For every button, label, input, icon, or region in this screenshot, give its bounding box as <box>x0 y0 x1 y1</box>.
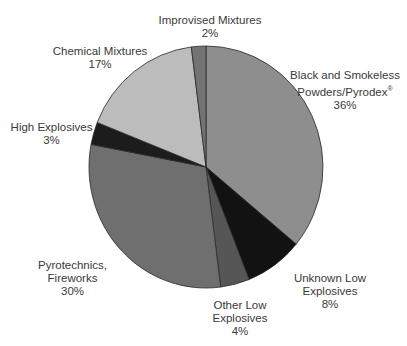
label-text: Chemical Mixtures <box>40 45 160 58</box>
label-percent: 17% <box>40 58 160 71</box>
label-text: Pyrotechnics, <box>30 259 115 272</box>
label-chemical-mixtures: Chemical Mixtures 17% <box>40 45 160 71</box>
label-unknown-low-explosives: Unknown Low Explosives 8% <box>275 272 385 311</box>
label-percent: 2% <box>150 27 270 40</box>
label-text-2: Explosives <box>200 312 280 325</box>
label-percent: 36% <box>285 99 405 112</box>
label-other-low-explosives: Other Low Explosives 4% <box>200 299 280 338</box>
label-percent: 30% <box>30 285 115 298</box>
label-text-2: Fireworks <box>30 272 115 285</box>
label-pyrotechnics-fireworks: Pyrotechnics, Fireworks 30% <box>30 259 115 298</box>
label-improvised-mixtures: Improvised Mixtures 2% <box>150 14 270 40</box>
label-percent: 4% <box>200 325 280 338</box>
label-text-2: Powders/Pyrodex® <box>285 82 405 99</box>
label-percent: 8% <box>275 298 385 311</box>
label-text: Other Low <box>200 299 280 312</box>
label-text: Black and Smokeless <box>285 69 405 82</box>
label-high-explosives: High Explosives 3% <box>4 121 99 147</box>
label-text: High Explosives <box>4 121 99 134</box>
label-text: Improvised Mixtures <box>150 14 270 27</box>
label-black-smokeless-powders: Black and Smokeless Powders/Pyrodex® 36% <box>285 69 405 112</box>
label-text: Unknown Low <box>275 272 385 285</box>
label-percent: 3% <box>4 134 99 147</box>
label-text-2: Explosives <box>275 285 385 298</box>
